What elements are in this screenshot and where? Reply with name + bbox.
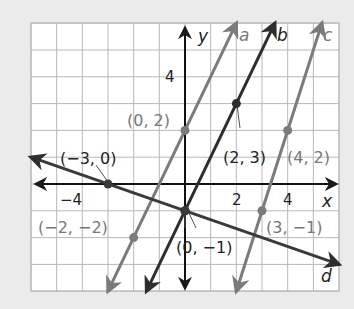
- line-b-label: b: [277, 25, 288, 45]
- point-a: [181, 126, 190, 135]
- point-label-neg3-0: (−3, 0): [60, 149, 116, 168]
- point-label-2-3: (2, 3): [223, 148, 266, 167]
- point-c: [258, 206, 267, 215]
- line-d-label: d: [321, 266, 332, 286]
- line-c-label: c: [323, 25, 333, 45]
- tick-y-4: 4: [165, 68, 175, 86]
- point-d: [181, 206, 190, 215]
- graph-svg: y x a b c d 4 −4 2 4 (0, 2) (−3, 0) (2, …: [0, 0, 354, 309]
- point-label-3-neg1: (3, −1): [266, 218, 322, 237]
- coordinate-plane-figure: y x a b c d 4 −4 2 4 (0, 2) (−3, 0) (2, …: [0, 0, 354, 309]
- point-label-0-2: (0, 2): [127, 111, 170, 130]
- point-label-0-neg1: (0, −1): [176, 238, 232, 257]
- tick-x-4: 4: [283, 191, 293, 209]
- point-c: [283, 126, 292, 135]
- point-label-neg2-neg2: (−2, −2): [38, 218, 108, 237]
- y-axis-label: y: [197, 26, 209, 46]
- x-axis-label: x: [321, 191, 333, 211]
- point-label-4-2: (4, 2): [287, 148, 330, 167]
- point-a: [129, 233, 138, 242]
- tick-x-2: 2: [232, 191, 242, 209]
- tick-x-neg4: −4: [60, 191, 82, 209]
- line-a-label: a: [239, 25, 249, 45]
- point-d: [103, 180, 112, 189]
- point-b: [232, 99, 241, 108]
